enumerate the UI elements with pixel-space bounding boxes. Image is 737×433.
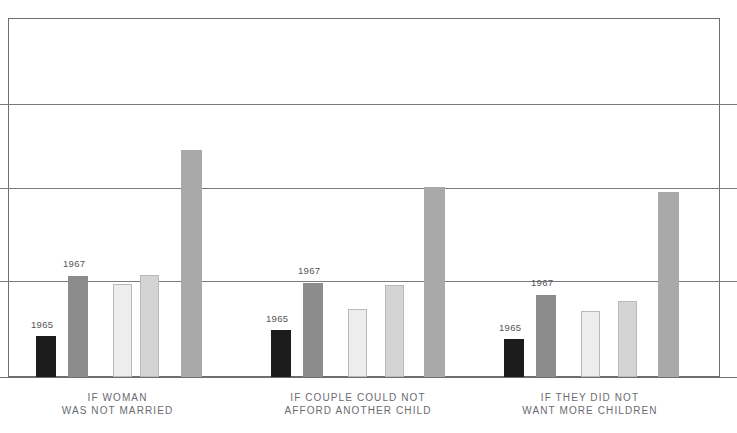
- axis-baseline: [0, 377, 737, 378]
- bar-group3-series4: [618, 301, 637, 377]
- bar-group3-series5: [658, 192, 679, 377]
- gridline-mid-upper: [0, 188, 737, 189]
- annotation-group3-1965: 1965: [499, 322, 521, 333]
- bar-group2-series4: [385, 285, 404, 377]
- category-label-group3-line2: WANT MORE CHILDREN: [490, 405, 690, 418]
- annotation-group2-1965: 1965: [266, 313, 288, 324]
- category-label-group1-line1: IF WOMAN: [10, 392, 225, 405]
- bar-group2-series3: [348, 309, 367, 377]
- bar-group1-series4: [140, 275, 159, 377]
- category-label-group2: IF COUPLE COULD NOT AFFORD ANOTHER CHILD: [253, 392, 463, 417]
- annotation-group1-1967: 1967: [63, 258, 85, 269]
- gridline-mid-lower: [0, 281, 737, 282]
- bar-group2-1967: [303, 283, 323, 377]
- annotation-group1-1965: 1965: [31, 319, 53, 330]
- gridline-upper: [0, 104, 737, 105]
- annotation-group3-1967: 1967: [531, 277, 553, 288]
- bar-group1-series3: [113, 284, 132, 377]
- category-label-group2-line2: AFFORD ANOTHER CHILD: [253, 405, 463, 418]
- bar-group3-1965: [504, 339, 524, 377]
- category-label-group3-line1: IF THEY DID NOT: [490, 392, 690, 405]
- bar-group1-1965: [36, 336, 56, 377]
- bar-group1-series5: [181, 150, 202, 377]
- category-label-group1: IF WOMAN WAS NOT MARRIED: [10, 392, 225, 417]
- annotation-group2-1967: 1967: [298, 265, 320, 276]
- bar-chart: 1965 1967 IF WOMAN WAS NOT MARRIED 1965 …: [0, 0, 737, 433]
- category-label-group3: IF THEY DID NOT WANT MORE CHILDREN: [490, 392, 690, 417]
- bar-group3-series3: [581, 311, 600, 377]
- category-label-group2-line1: IF COUPLE COULD NOT: [253, 392, 463, 405]
- category-label-group1-line2: WAS NOT MARRIED: [10, 405, 225, 418]
- bar-group2-1965: [271, 330, 291, 377]
- bar-group1-1967: [68, 276, 88, 377]
- bar-group3-1967: [536, 295, 556, 377]
- bar-group2-series5: [424, 187, 445, 377]
